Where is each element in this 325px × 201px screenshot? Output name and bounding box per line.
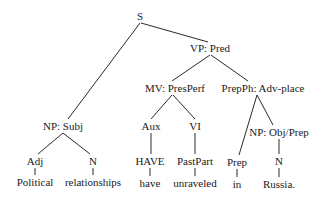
node-n-obj: N [275, 155, 283, 167]
node-adj: Adj [27, 155, 44, 167]
tree-edge [239, 95, 257, 155]
tree-edge [257, 95, 273, 125]
node-aux: Aux [142, 120, 161, 132]
node-have-cap: HAVE [135, 155, 164, 167]
tree-edge [141, 23, 208, 42]
tree-edge [172, 55, 210, 81]
node-n-subj: N [89, 155, 97, 167]
word-have: have [140, 177, 161, 189]
word-political: Political [17, 176, 54, 188]
node-mv-presperf: MV: PresPerf [145, 82, 205, 94]
node-prepph-adv-place: PrepPh: Adv-place [222, 82, 305, 94]
word-in: in [233, 178, 242, 190]
node-s: S [137, 10, 143, 22]
word-unraveled: unraveled [173, 177, 216, 189]
word-russia: Russia. [263, 178, 295, 190]
node-np-subj: NP: Subj [43, 120, 83, 132]
node-vi: VI [189, 120, 201, 132]
tree-edge [173, 95, 195, 119]
word-relationships: relationships [65, 176, 121, 188]
tree-edge [63, 133, 90, 154]
tree-edge [68, 23, 140, 119]
syntax-tree-diagram: S VP: Pred NP: Subj MV: PresPerf PrepPh:… [0, 0, 325, 201]
node-vp-pred: VP: Pred [190, 42, 230, 54]
tree-edge [38, 133, 63, 154]
node-prep: Prep [227, 156, 247, 168]
tree-edges [0, 0, 325, 201]
node-pastpart: PastPart [177, 155, 213, 167]
tree-edge [151, 95, 172, 119]
node-np-obj-prep: NP: Obj/Prep [249, 126, 309, 138]
tree-edge [211, 55, 248, 81]
